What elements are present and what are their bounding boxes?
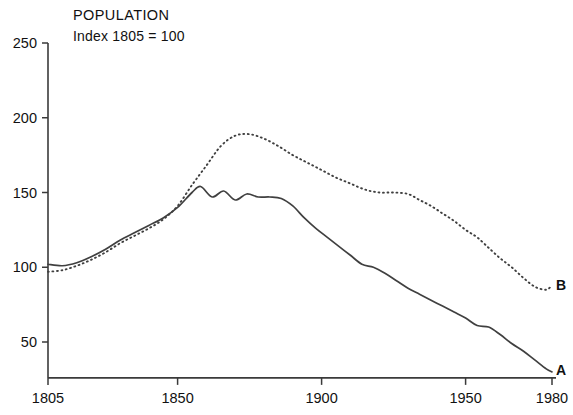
series-line-b xyxy=(48,134,552,290)
x-axis-tick-label: 1850 xyxy=(161,390,193,406)
series-layer xyxy=(48,134,552,372)
series-annotations: AB xyxy=(556,277,566,378)
y-axis-tick-label: 150 xyxy=(13,185,37,201)
chart-svg: POPULATION Index 1805 = 100 501001502002… xyxy=(0,0,573,415)
y-axis-tick-label: 50 xyxy=(21,334,37,350)
x-axis: 18051850190019501980 xyxy=(32,378,568,406)
y-axis-tick-label: 250 xyxy=(13,35,37,51)
chart-title: POPULATION xyxy=(73,7,169,23)
x-axis-tick-label: 1805 xyxy=(32,390,64,406)
series-label-b: B xyxy=(556,277,566,293)
x-axis-tick-label: 1950 xyxy=(449,390,481,406)
y-axis-tick-label: 100 xyxy=(13,259,37,275)
population-index-chart: POPULATION Index 1805 = 100 501001502002… xyxy=(0,0,573,415)
series-label-a: A xyxy=(556,362,566,378)
y-axis: 50100150200250 xyxy=(13,35,48,378)
chart-subtitle: Index 1805 = 100 xyxy=(73,28,185,44)
x-axis-tick-label: 1980 xyxy=(536,390,568,406)
y-axis-tick-label: 200 xyxy=(13,110,37,126)
series-line-a xyxy=(48,186,552,371)
x-axis-tick-label: 1900 xyxy=(305,390,337,406)
